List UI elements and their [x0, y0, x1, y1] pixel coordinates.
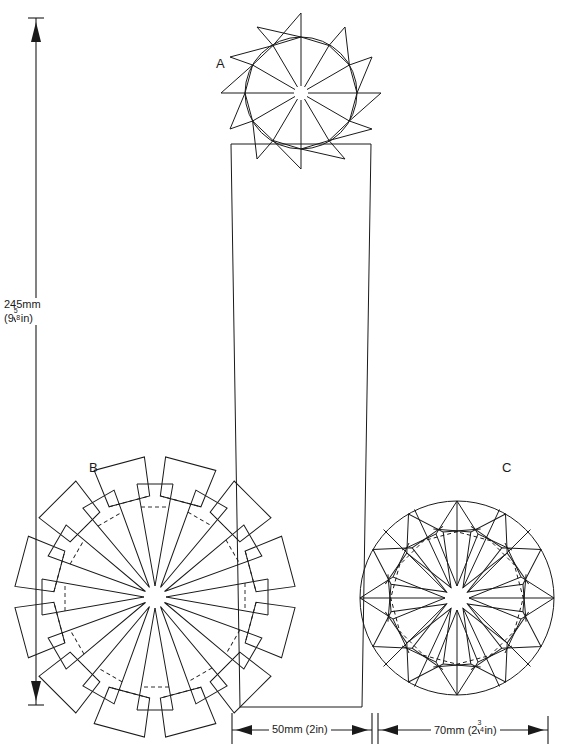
vdim-numerator: 5	[14, 307, 18, 314]
vdim-imp-whole: (9	[4, 312, 14, 324]
hdim-numerator: 3	[477, 719, 481, 726]
vertical-dimension-label: 245mm (958in)	[4, 298, 70, 325]
star-rosette-c	[360, 501, 554, 695]
star-label-c: C	[502, 460, 512, 475]
star-rosette-b	[15, 457, 295, 737]
star-rosette-a	[221, 13, 381, 169]
hdim-imp-suffix: in)	[484, 724, 496, 736]
hdim-fraction: 34	[477, 723, 484, 734]
candle-pattern-diagram: A B C 245mm (958in) 50mm (2in) 70mm (234…	[0, 0, 569, 744]
dimension-label-candle-width: 50mm (2in)	[269, 723, 331, 735]
vdim-fraction: 58	[14, 311, 21, 322]
diagram-canvas	[0, 0, 569, 744]
star-label-a: A	[216, 56, 225, 71]
star-label-b: B	[89, 460, 98, 475]
hdim-denominator: 4	[480, 726, 484, 733]
vertical-dimension-imperial: (958in)	[4, 311, 70, 325]
hdim-metric: 70mm	[434, 724, 465, 736]
vdim-denominator: 8	[16, 314, 20, 321]
candle-body	[231, 144, 371, 707]
dimension-label-star-width: 70mm (234in)	[431, 723, 500, 736]
hdim-imp-whole: (2	[468, 724, 478, 736]
vdim-imp-suffix: in)	[21, 312, 33, 324]
